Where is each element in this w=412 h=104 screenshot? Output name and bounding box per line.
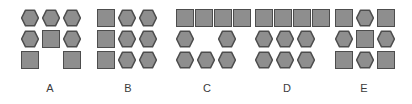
hexagon-icon bbox=[255, 51, 273, 69]
shape-cell bbox=[20, 50, 41, 71]
shape-cell bbox=[254, 50, 275, 71]
square-icon bbox=[356, 30, 374, 48]
shape-row bbox=[175, 29, 251, 50]
square-icon bbox=[63, 51, 81, 69]
hexagon-icon bbox=[377, 30, 395, 48]
option-group-c[interactable]: C bbox=[170, 0, 244, 104]
shape-cell bbox=[213, 8, 232, 29]
square-icon bbox=[377, 51, 395, 69]
hexagon-icon bbox=[276, 51, 294, 69]
hexagon-icon bbox=[139, 30, 157, 48]
hexagon-icon bbox=[63, 30, 81, 48]
shape-cell bbox=[376, 29, 397, 50]
shape-cell bbox=[355, 8, 376, 29]
hexagon-icon bbox=[176, 51, 194, 69]
shape-cell bbox=[96, 8, 117, 29]
shape-cell bbox=[175, 50, 196, 71]
square-icon bbox=[214, 9, 232, 27]
hexagon-icon bbox=[297, 30, 315, 48]
shape-cell bbox=[196, 29, 217, 50]
shape-row bbox=[96, 29, 159, 50]
hexagon-icon bbox=[356, 51, 374, 69]
shape-cell bbox=[96, 50, 117, 71]
shape-cell bbox=[254, 29, 275, 50]
shape-cell bbox=[41, 8, 62, 29]
hexagon-icon bbox=[118, 30, 136, 48]
shape-cell bbox=[275, 29, 296, 50]
shape-cell bbox=[376, 50, 397, 71]
shape-cell bbox=[254, 8, 273, 29]
shape-cell bbox=[194, 8, 213, 29]
hexagon-icon bbox=[118, 51, 136, 69]
shape-row bbox=[334, 8, 397, 29]
square-icon bbox=[97, 30, 115, 48]
hexagon-icon bbox=[218, 51, 236, 69]
option-group-e[interactable]: E bbox=[326, 0, 402, 104]
square-icon bbox=[97, 9, 115, 27]
shape-cell bbox=[138, 50, 159, 71]
option-group-a[interactable]: A bbox=[14, 0, 86, 104]
shape-cell bbox=[275, 50, 296, 71]
shape-row bbox=[20, 29, 83, 50]
shape-cell bbox=[376, 8, 397, 29]
shape-puzzle-board: ABCDE bbox=[0, 0, 412, 104]
option-label-d: D bbox=[248, 82, 326, 94]
option-group-b[interactable]: B bbox=[92, 0, 164, 104]
shape-grid bbox=[175, 8, 251, 71]
shape-cell bbox=[296, 29, 317, 50]
shape-grid bbox=[334, 8, 397, 71]
shape-row bbox=[96, 8, 159, 29]
hexagon-icon bbox=[356, 9, 374, 27]
shape-cell bbox=[41, 50, 62, 71]
square-icon bbox=[335, 51, 353, 69]
shape-cell bbox=[62, 8, 83, 29]
shape-cell bbox=[355, 50, 376, 71]
shape-row bbox=[20, 8, 83, 29]
hexagon-icon bbox=[21, 30, 39, 48]
shape-row bbox=[334, 29, 397, 50]
shape-grid bbox=[96, 8, 159, 71]
shape-row bbox=[20, 50, 83, 71]
square-icon bbox=[335, 9, 353, 27]
square-icon bbox=[97, 51, 115, 69]
square-icon bbox=[21, 51, 39, 69]
shape-cell bbox=[138, 29, 159, 50]
shape-row bbox=[175, 50, 251, 71]
square-icon bbox=[274, 9, 292, 27]
shape-cell bbox=[355, 29, 376, 50]
shape-row bbox=[254, 8, 330, 29]
hexagon-icon bbox=[197, 51, 215, 69]
hexagon-icon bbox=[335, 30, 353, 48]
hexagon-icon bbox=[42, 9, 60, 27]
square-icon bbox=[195, 9, 213, 27]
shape-cell bbox=[138, 8, 159, 29]
shape-cell bbox=[175, 8, 194, 29]
hexagon-icon bbox=[297, 51, 315, 69]
shape-cell bbox=[62, 29, 83, 50]
shape-grid bbox=[254, 8, 330, 71]
shape-cell bbox=[20, 29, 41, 50]
shape-row bbox=[254, 50, 330, 71]
shape-cell bbox=[20, 8, 41, 29]
option-label-c: C bbox=[170, 82, 244, 94]
hexagon-icon bbox=[276, 30, 294, 48]
option-group-d[interactable]: D bbox=[248, 0, 326, 104]
shape-row bbox=[96, 50, 159, 71]
shape-row bbox=[175, 8, 251, 29]
hexagon-icon bbox=[139, 9, 157, 27]
hexagon-icon bbox=[176, 30, 194, 48]
hexagon-icon bbox=[118, 9, 136, 27]
square-icon bbox=[255, 9, 273, 27]
option-label-a: A bbox=[14, 82, 86, 94]
shape-cell bbox=[175, 29, 196, 50]
shape-cell bbox=[334, 8, 355, 29]
shape-cell bbox=[117, 8, 138, 29]
empty-slot bbox=[42, 51, 60, 69]
shape-cell bbox=[117, 50, 138, 71]
shape-cell bbox=[196, 50, 217, 71]
shape-cell bbox=[292, 8, 311, 29]
shape-grid bbox=[20, 8, 83, 71]
shape-cell bbox=[296, 50, 317, 71]
shape-row bbox=[334, 50, 397, 71]
shape-cell bbox=[273, 8, 292, 29]
